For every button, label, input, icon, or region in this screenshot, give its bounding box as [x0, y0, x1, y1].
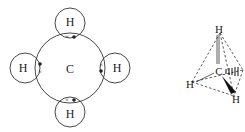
cross-electron-top: × [65, 33, 69, 41]
tetra-carbon-label: C [215, 65, 222, 77]
tetra-hydrogen-left: H [186, 78, 194, 90]
hydrogen-label-right: H [113, 61, 122, 75]
cross-electron-bottom: × [65, 96, 69, 104]
dot-electron-bottom [72, 98, 76, 102]
methane-diagrams: C H H H H × × × × [0, 0, 245, 132]
wedge-bond [222, 76, 236, 94]
hydrogen-label-bottom: H [66, 107, 75, 121]
tetrahedral-labels: C H H H [186, 23, 240, 105]
cross-electron-left: × [38, 68, 42, 76]
tetra-hydrogen-bottom-right: H [232, 93, 240, 105]
hydrogen-label-left: H [19, 61, 28, 75]
dot-electron-top [72, 35, 76, 39]
carbon-label: C [66, 62, 74, 76]
hydrogen-label-top: H [66, 15, 75, 29]
cross-electron-right: × [99, 61, 103, 69]
dot-electron-left [38, 62, 42, 66]
lewis-labels: C H H H H [19, 15, 122, 121]
dot-electron-right [99, 69, 103, 73]
tetra-hydrogen-top: H [215, 23, 223, 35]
